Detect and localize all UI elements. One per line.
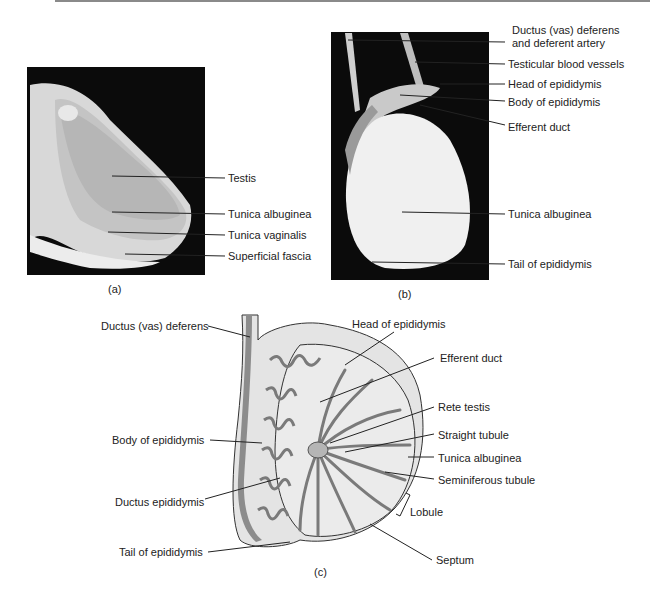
label-rete-testis-c: Rete testis (438, 401, 490, 413)
label-tunica-albuginea-b: Tunica albuginea (508, 208, 591, 220)
label-deferent-artery-b: and deferent artery (512, 37, 605, 49)
label-ductus-epididymis-c: Ductus epididymis (115, 496, 204, 508)
label-straight-tubule-c: Straight tubule (438, 429, 509, 441)
label-efferent-duct-c: Efferent duct (440, 352, 502, 364)
label-tunica-vaginalis-a: Tunica vaginalis (228, 229, 306, 241)
label-head-epididymis-c: Head of epididymis (352, 318, 446, 330)
label-body-epididymis-b: Body of epididymis (508, 96, 600, 108)
label-septum-c: Septum (436, 554, 474, 566)
label-tail-epididymis-b: Tail of epididymis (508, 258, 592, 270)
label-tail-epididymis-c: Tail of epididymis (119, 546, 203, 558)
label-testis-a: Testis (228, 172, 256, 184)
label-seminiferous-tubule-c: Seminiferous tubule (438, 474, 535, 486)
caption-c: (c) (314, 566, 327, 578)
caption-a: (a) (108, 283, 121, 295)
label-efferent-duct-b: Efferent duct (508, 121, 570, 133)
label-ductus-deferens-c: Ductus (vas) deferens (101, 320, 209, 332)
label-superficial-fascia-a: Superficial fascia (228, 250, 311, 262)
label-lobule-c: Lobule (410, 506, 443, 518)
label-tunica-albuginea-c: Tunica albuginea (438, 452, 521, 464)
label-tunica-albuginea-a: Tunica albuginea (228, 208, 311, 220)
caption-b: (b) (398, 288, 411, 300)
panel-b-photo (331, 32, 489, 280)
label-head-epididymis-b: Head of epididymis (508, 78, 602, 90)
panel-c-illustration (233, 315, 423, 547)
label-ductus-deferens-b: Ductus (vas) deferens (512, 24, 620, 36)
label-testicular-vessels-b: Testicular blood vessels (508, 58, 624, 70)
panel-a-photo (27, 67, 205, 275)
label-body-epididymis-c: Body of epididymis (112, 434, 204, 446)
